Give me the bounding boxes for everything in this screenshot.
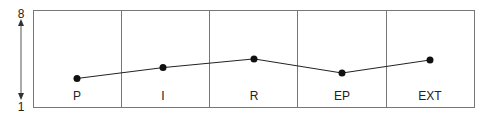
data-point-i xyxy=(160,64,167,71)
data-point-ext xyxy=(427,57,434,64)
data-series xyxy=(74,55,434,82)
arrow-down-icon xyxy=(18,93,24,100)
y-axis: 8 1 xyxy=(18,7,25,114)
x-label-p: P xyxy=(73,89,81,103)
x-label-ext: EXT xyxy=(418,89,442,103)
data-point-ep xyxy=(339,70,346,77)
x-label-ep: EP xyxy=(334,89,350,103)
x-label-i: I xyxy=(161,89,164,103)
x-label-r: R xyxy=(250,89,259,103)
data-point-r xyxy=(251,55,258,62)
data-point-p xyxy=(74,75,81,82)
line-chart: 8 1 PIREPEXT xyxy=(0,0,492,114)
y-axis-top-label: 8 xyxy=(18,7,25,21)
y-axis-bottom-label: 1 xyxy=(18,100,25,114)
